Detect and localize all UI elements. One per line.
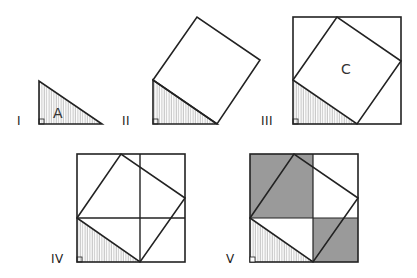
panel-5 <box>250 154 358 262</box>
panel-label-3: III <box>261 114 273 128</box>
panel-2 <box>153 17 260 124</box>
right-triangle <box>39 81 102 124</box>
right-angle-marker <box>250 257 255 262</box>
pythagoras-diagram <box>0 0 417 278</box>
shaded-square-a <box>250 154 313 218</box>
panel-label-2: II <box>122 114 130 128</box>
panel-1 <box>39 81 102 124</box>
area-label-a: A <box>53 105 63 121</box>
panel-label-4: IV <box>51 252 64 266</box>
panel-label-1: I <box>17 114 21 128</box>
area-label-c: C <box>341 61 351 77</box>
panel-4 <box>77 154 185 262</box>
panel-label-5: V <box>226 252 235 266</box>
shaded-square-b <box>313 218 358 262</box>
